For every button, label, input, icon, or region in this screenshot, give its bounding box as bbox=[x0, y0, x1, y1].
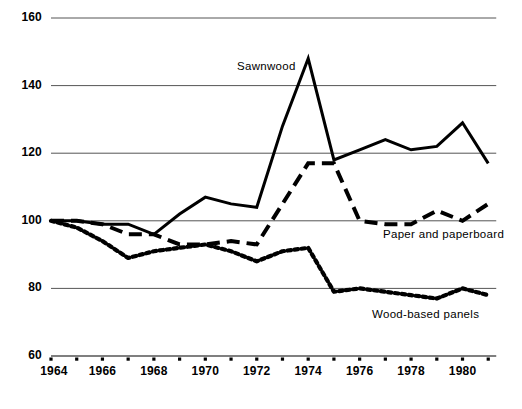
x-tick-1977 bbox=[384, 358, 387, 361]
x-tick-1967 bbox=[127, 358, 130, 361]
x-tick-1981 bbox=[487, 358, 490, 361]
x-tick-1978 bbox=[409, 358, 412, 361]
x-tick-1973 bbox=[281, 358, 284, 361]
x-tick-1972 bbox=[255, 358, 258, 361]
x-tick-1968 bbox=[152, 358, 155, 361]
y-tick-label-100: 100 bbox=[0, 213, 42, 227]
y-tick-label-60: 60 bbox=[0, 348, 42, 362]
y-tick-label-140: 140 bbox=[0, 78, 42, 92]
series-label-paper-and-paperboard: Paper and paperboard bbox=[383, 228, 504, 240]
y-tick-label-120: 120 bbox=[0, 145, 42, 159]
x-tick-1975 bbox=[332, 358, 335, 361]
y-tick-label-160: 160 bbox=[0, 10, 42, 24]
x-tick-1965 bbox=[75, 358, 78, 361]
x-tick-label-1980: 1980 bbox=[433, 364, 493, 378]
y-tick-label-80: 80 bbox=[0, 280, 42, 294]
x-tick-1976 bbox=[358, 358, 361, 361]
series-label-wood-based-panels: Wood-based panels bbox=[372, 308, 479, 320]
chart-container: 6080100120140160 19641966196819701972197… bbox=[0, 0, 522, 409]
x-tick-1964 bbox=[49, 358, 52, 361]
x-tick-1971 bbox=[229, 358, 232, 361]
series-label-sawnwood: Sawnwood bbox=[237, 60, 296, 72]
x-tick-1966 bbox=[101, 358, 104, 361]
x-axis-ticks bbox=[49, 358, 489, 361]
x-tick-1969 bbox=[178, 358, 181, 361]
x-tick-1974 bbox=[307, 358, 310, 361]
series-line-sawnwood bbox=[51, 59, 488, 235]
x-tick-1970 bbox=[204, 358, 207, 361]
x-tick-1980 bbox=[461, 358, 464, 361]
x-tick-1979 bbox=[435, 358, 438, 361]
